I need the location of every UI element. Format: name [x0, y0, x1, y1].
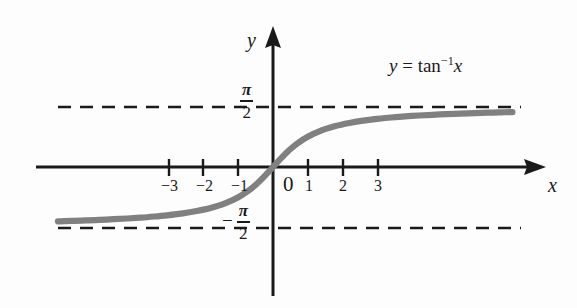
two-denominator: 2 [237, 224, 250, 242]
equation-equals: = [402, 55, 413, 76]
pi-numerator: π [240, 81, 253, 99]
x-tick-label--1: −1 [231, 178, 248, 194]
arctan-graph-figure: y x y = tan−1x π 2 − π 2 −3 −2 −1 0 1 2 … [0, 0, 577, 308]
x-tick-label-0: 0 [283, 174, 294, 195]
x-tick-label--2: −2 [196, 178, 213, 194]
x-tick-label--3: −3 [161, 178, 178, 194]
x-tick-label-1: 1 [305, 178, 313, 194]
minus-sign: − [222, 211, 233, 230]
pi-numerator: π [237, 202, 250, 220]
equation-function-name: tan [418, 55, 441, 76]
x-tick-label-2: 2 [339, 178, 347, 194]
neg-pi-over-2-fraction: π 2 [237, 202, 250, 242]
two-denominator: 2 [240, 103, 253, 121]
equation-annotation: y = tan−1x [389, 55, 462, 75]
plot-canvas [0, 0, 577, 308]
y-axis-label: y [247, 30, 256, 50]
x-tick-label-3: 3 [374, 178, 382, 194]
x-axis-label: x [548, 175, 557, 195]
upper-asymptote-label: π 2 [240, 81, 253, 121]
x-axis-arrowhead [524, 159, 546, 175]
equation-argument: x [454, 55, 462, 76]
y-axis-arrowhead [265, 26, 281, 48]
equation-exponent: −1 [441, 54, 454, 68]
pi-over-2-fraction: π 2 [240, 81, 253, 121]
fraction-bar [240, 100, 253, 102]
fraction-bar [237, 221, 250, 223]
lower-asymptote-label: − π 2 [222, 202, 250, 242]
